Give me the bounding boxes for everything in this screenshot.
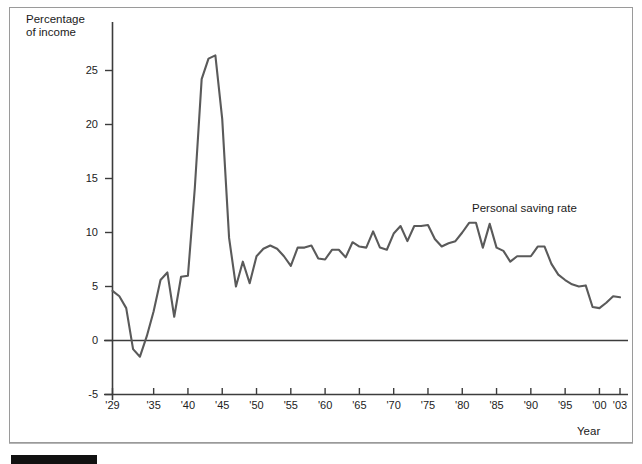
y-axis-title: Percentageof income (26, 13, 85, 39)
bottom-divider-rule (9, 443, 633, 444)
x-tick-label: '70 (377, 399, 411, 411)
y-tick-label: 10 (72, 226, 98, 238)
y-tick-label: 0 (72, 334, 98, 346)
x-tick-label: '55 (274, 399, 308, 411)
x-tick-label: '45 (205, 399, 239, 411)
x-tick-label: '03 (603, 399, 637, 411)
x-tick-label: '75 (411, 399, 445, 411)
x-tick-label: '95 (548, 399, 582, 411)
x-tick-label: '40 (171, 399, 205, 411)
x-tick-label: '90 (514, 399, 548, 411)
x-tick-label: '50 (240, 399, 274, 411)
x-tick-label: '60 (308, 399, 342, 411)
x-tick-label: '35 (137, 399, 171, 411)
y-axis-title-line: of income (26, 26, 85, 39)
x-tick-label: '80 (445, 399, 479, 411)
black-footer-bar (11, 455, 97, 464)
x-tick-label: '85 (480, 399, 514, 411)
y-tick-label: 20 (72, 118, 98, 130)
y-axis-title-line: Percentage (26, 13, 85, 26)
y-tick-label: -5 (72, 388, 98, 400)
x-tick-label: '29 (96, 399, 130, 411)
y-tick-label: 15 (72, 172, 98, 184)
series-annotation-label: Personal saving rate (472, 202, 577, 214)
y-axis-tick-marks (105, 71, 112, 395)
y-tick-label: 5 (72, 280, 98, 292)
x-tick-label: '65 (342, 399, 376, 411)
y-tick-label: 25 (72, 64, 98, 76)
x-axis-title: Year (577, 425, 600, 438)
